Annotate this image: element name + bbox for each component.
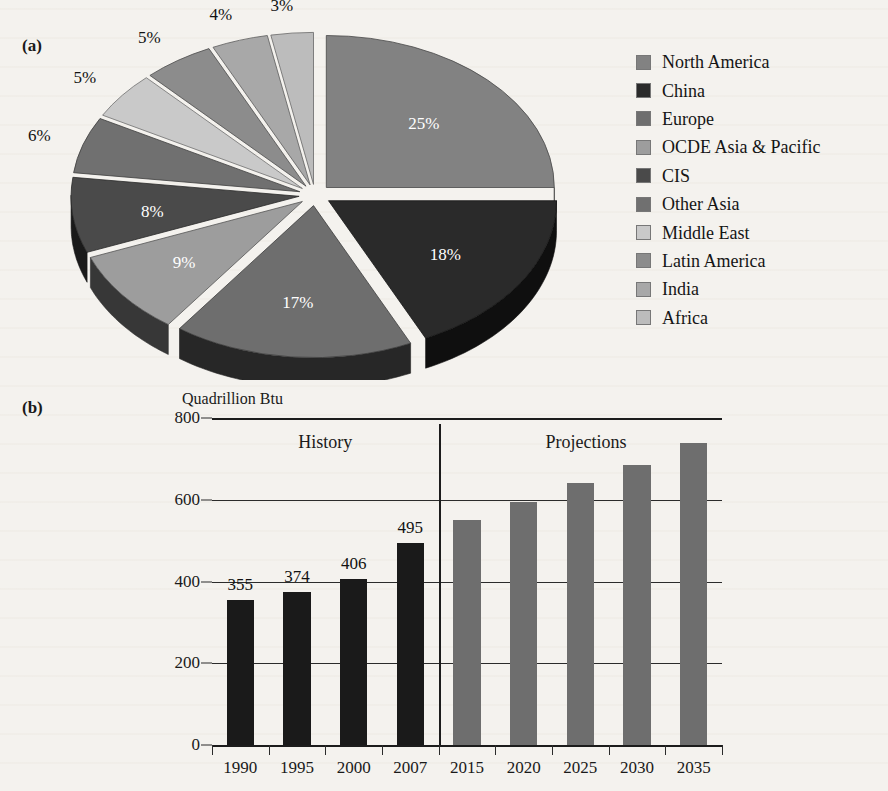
xtick-mark-4: [439, 745, 440, 755]
legend-item-china: China: [636, 76, 886, 104]
gridline-0: [212, 745, 722, 747]
legend-label: India: [662, 280, 699, 298]
bar-value-label-2000: 406: [341, 554, 367, 574]
bar-2030: [623, 465, 650, 745]
pie-label-india: 4%: [210, 5, 233, 25]
ytick-label-400: 400: [175, 572, 201, 592]
xtick-mark-7: [609, 745, 610, 755]
pie-label-cis: 8%: [141, 202, 164, 222]
legend-item-middle-east: Middle East: [636, 218, 886, 246]
legend-item-europe: Europe: [636, 105, 886, 133]
legend-label: Latin America: [662, 252, 765, 270]
legend-swatch-icon: [636, 55, 651, 70]
legend-label: CIS: [662, 167, 690, 185]
xtick-label-2025: 2025: [563, 758, 597, 778]
bar-2035: [680, 443, 707, 745]
xtick-label-1990: 1990: [223, 758, 257, 778]
ytick-label-800: 800: [175, 408, 201, 428]
bar-2020: [510, 502, 537, 745]
legend-swatch-icon: [636, 310, 651, 325]
xtick-label-1995: 1995: [280, 758, 314, 778]
projections-region-label: Projections: [546, 432, 627, 453]
pie-label-europe: 17%: [282, 293, 313, 313]
legend-swatch-icon: [636, 140, 651, 155]
gridline-800: [212, 418, 722, 420]
pie-label-china: 18%: [430, 245, 461, 265]
ytick-label-0: 0: [192, 735, 201, 755]
legend-label: Africa: [662, 309, 708, 327]
bar-value-label-1990: 355: [228, 575, 254, 595]
xtick-mark-5: [495, 745, 496, 755]
bar-value-label-2007: 495: [398, 518, 424, 538]
legend-swatch-icon: [636, 197, 651, 212]
legend-swatch-icon: [636, 282, 651, 297]
pie-label-latin-america: 5%: [138, 28, 161, 48]
ytick-mark-600: [201, 499, 212, 500]
figure-container: (a) 25%18%17%9%8%6%5%5%4%3% North Americ…: [0, 0, 888, 791]
xtick-mark-end: [722, 745, 723, 755]
history-region-label: History: [298, 432, 352, 453]
xtick-label-2000: 2000: [337, 758, 371, 778]
xtick-mark-6: [552, 745, 553, 755]
legend-item-india: India: [636, 275, 886, 303]
bar-2007: 495: [397, 543, 424, 745]
bar-plot-area: 8006004002000HistoryProjections355199037…: [212, 418, 722, 745]
legend-swatch-icon: [636, 225, 651, 240]
pie-label-africa: 3%: [270, 0, 293, 16]
legend-label: China: [662, 82, 705, 100]
bar-value-label-1995: 374: [284, 567, 310, 587]
pie-legend: North AmericaChinaEuropeOCDE Asia & Paci…: [636, 48, 886, 332]
legend-item-north-america: North America: [636, 48, 886, 76]
xtick-label-2007: 2007: [393, 758, 427, 778]
bar-1990: 355: [227, 600, 254, 745]
xtick-label-2030: 2030: [620, 758, 654, 778]
bar-2015: [453, 520, 480, 745]
xtick-mark-3: [382, 745, 383, 755]
legend-swatch-icon: [636, 168, 651, 183]
legend-label: Other Asia: [662, 195, 739, 213]
xtick-mark-1: [269, 745, 270, 755]
xtick-mark-8: [665, 745, 666, 755]
bar-axis-title: Quadrillion Btu: [182, 390, 283, 408]
legend-label: North America: [662, 53, 769, 71]
xtick-mark-0: [212, 745, 213, 755]
xtick-mark-2: [325, 745, 326, 755]
legend-item-other-asia: Other Asia: [636, 190, 886, 218]
pie-label-ocde-asia-pacific: 9%: [173, 253, 196, 273]
legend-label: Middle East: [662, 224, 750, 242]
bar-2025: [567, 483, 594, 745]
bar-1995: 374: [283, 592, 310, 745]
legend-swatch-icon: [636, 253, 651, 268]
ytick-mark-200: [201, 663, 212, 664]
pie-label-middle-east: 5%: [74, 68, 97, 88]
ytick-label-600: 600: [175, 490, 201, 510]
pie-slice-north-america: [326, 36, 554, 188]
legend-swatch-icon: [636, 111, 651, 126]
ytick-mark-0: [201, 745, 212, 746]
bar-2000: 406: [340, 579, 367, 745]
legend-item-africa: Africa: [636, 304, 886, 332]
legend-label: OCDE Asia & Pacific: [662, 138, 820, 156]
history-projection-divider: [439, 424, 441, 745]
pie-label-north-america: 25%: [408, 114, 439, 134]
legend-label: Europe: [662, 110, 714, 128]
legend-item-ocde-asia-pacific: OCDE Asia & Pacific: [636, 133, 886, 161]
legend-item-latin-america: Latin America: [636, 247, 886, 275]
legend-swatch-icon: [636, 83, 651, 98]
pie-label-other-asia: 6%: [28, 126, 51, 146]
bar-chart-panel: Quadrillion Btu 8006004002000HistoryProj…: [0, 390, 888, 791]
pie-chart-svg: [10, 20, 620, 380]
xtick-label-2035: 2035: [677, 758, 711, 778]
legend-item-cis: CIS: [636, 162, 886, 190]
xtick-label-2015: 2015: [450, 758, 484, 778]
ytick-label-200: 200: [175, 653, 201, 673]
ytick-mark-400: [201, 581, 212, 582]
xtick-label-2020: 2020: [507, 758, 541, 778]
pie-chart-panel: 25%18%17%9%8%6%5%5%4%3%: [0, 20, 620, 390]
ytick-mark-800: [201, 418, 212, 419]
